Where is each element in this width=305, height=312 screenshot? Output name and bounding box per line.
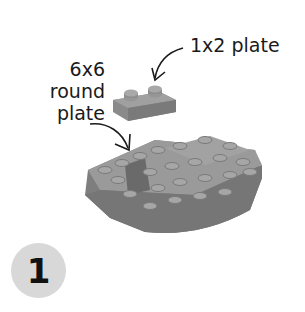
plate-6x6-round (85, 136, 262, 233)
label-6x6-round-plate: 6x6 round plate (50, 58, 105, 124)
label-1x2-plate: 1x2 plate (190, 34, 280, 56)
label-line: round (50, 80, 105, 102)
label-line: plate (50, 102, 105, 124)
step-number: 1 (27, 251, 51, 291)
plate-1x2 (113, 86, 176, 122)
arrowhead-1x2 (152, 68, 165, 80)
step-number-badge: 1 (11, 243, 66, 298)
label-line: 6x6 (50, 58, 105, 80)
arrow-1x2 (155, 48, 183, 78)
arrow-6x6 (90, 124, 128, 148)
